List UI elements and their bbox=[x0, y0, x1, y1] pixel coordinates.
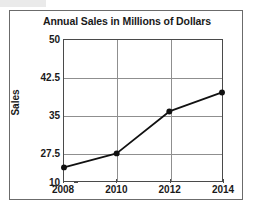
data-point-marker: 2008: 24.5 bbox=[61, 164, 67, 170]
x-axis-tick-mark bbox=[170, 179, 171, 183]
x-axis-tick-label: 2010 bbox=[105, 184, 127, 195]
sales-line-series: 2008: 24.52010: 27.32012: 35.72014: 39.5 bbox=[64, 40, 222, 181]
x-axis-tick-labels: 2008201020122014 bbox=[63, 184, 223, 200]
y-axis-tick-label: 35 bbox=[49, 110, 60, 121]
plot-area: 2008: 24.52010: 27.32012: 35.72014: 39.5 bbox=[63, 39, 223, 182]
x-axis-tick-mark bbox=[116, 179, 117, 183]
x-axis-tick-label: 2014 bbox=[212, 184, 234, 195]
y-axis-tick-label: 27.5 bbox=[41, 148, 60, 159]
y-axis-tick-label: 50 bbox=[49, 34, 60, 45]
x-axis-tick-mark bbox=[223, 179, 224, 183]
y-axis-title: Sales bbox=[10, 89, 21, 115]
x-axis-tick-label: 2008 bbox=[52, 184, 74, 195]
x-axis-tick-label: 2012 bbox=[159, 184, 181, 195]
chart-title: Annual Sales in Millions of Dollars bbox=[10, 15, 244, 27]
scan-artifact bbox=[0, 0, 46, 7]
y-axis-tick-label: 42.5 bbox=[41, 72, 60, 83]
chart-figure: Annual Sales in Millions of Dollars Sale… bbox=[9, 10, 243, 200]
sales-line bbox=[64, 92, 222, 167]
data-point-marker: 2012: 35.7 bbox=[166, 108, 172, 114]
y-axis-tick-mark bbox=[74, 182, 78, 183]
y-axis-tick-labels: 5042.53527.510 bbox=[24, 39, 60, 182]
data-point-marker: 2010: 27.3 bbox=[114, 150, 120, 156]
x-axis-tick-mark bbox=[63, 179, 64, 183]
data-point-marker: 2014: 39.5 bbox=[219, 89, 225, 95]
